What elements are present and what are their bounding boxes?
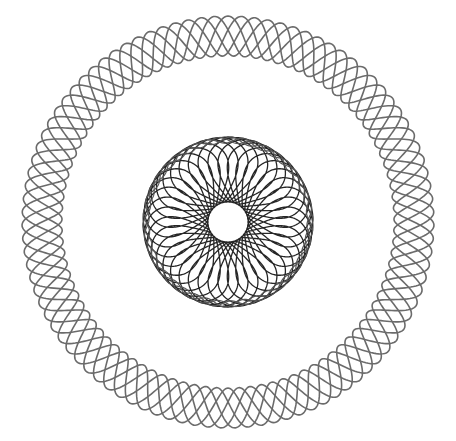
spirograph-canvas: [0, 0, 456, 441]
outer-braided-ring: [22, 16, 434, 428]
inner-rosette: [143, 137, 313, 307]
